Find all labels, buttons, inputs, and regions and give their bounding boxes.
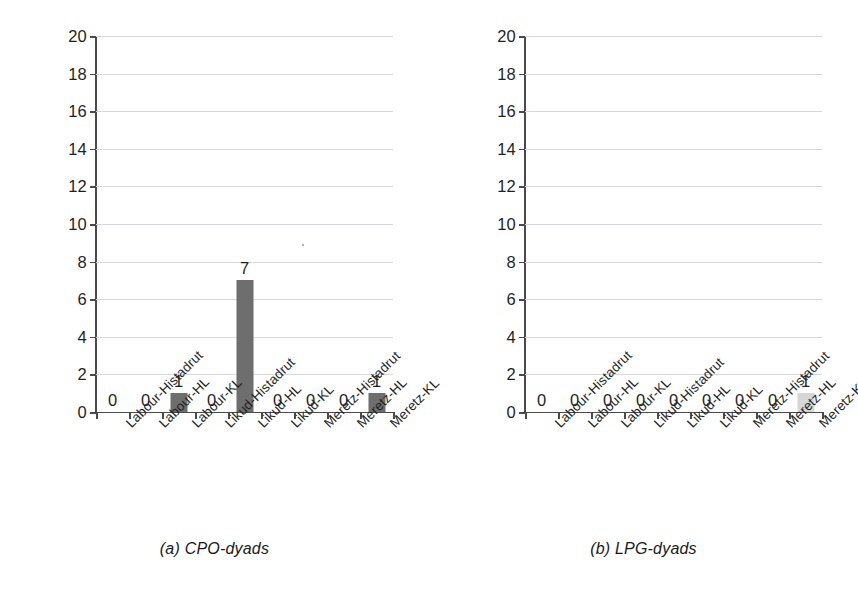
caption-b: (b) LPG-dyads (429, 540, 858, 558)
y-tick-label-2: 2 (78, 365, 87, 384)
bar-group-labour-hl[interactable]: 0 (558, 36, 591, 412)
x-axis-label: Meretz-Histadrut (321, 420, 332, 431)
panel-cpo-dyads: 02468101214161820 001070001 Labour-Hista… (0, 0, 429, 590)
x-axis-label: Labour-Histadrut (552, 420, 563, 431)
bar-value-label: 0 (108, 391, 117, 410)
y-tick-label-12: 12 (68, 177, 87, 196)
x-axis-label: Labour-HL (156, 420, 167, 431)
bar-value-label: 0 (537, 391, 546, 410)
x-axis-labels-a: Labour-HistadrutLabour-HLLabour-KLLikud-… (96, 420, 393, 530)
y-tick-label-4: 4 (507, 327, 516, 346)
y-tick-label-18: 18 (497, 64, 516, 83)
panel-lpg-dyads: 02468101214161820 000000001 Labour-Hista… (429, 0, 858, 590)
x-axis-label: Meretz-KL (387, 420, 398, 431)
bar-group-meretz-hl[interactable]: 0 (327, 36, 360, 412)
y-tick-label-6: 6 (78, 290, 87, 309)
y-tick-label-2: 2 (507, 365, 516, 384)
x-axis-label: Labour-KL (618, 420, 629, 431)
bar-group-labour-histadrut[interactable]: 0 (96, 36, 129, 412)
y-tick-label-12: 12 (497, 177, 516, 196)
x-axis-label: Meretz-HL (354, 420, 365, 431)
y-tick-label-8: 8 (507, 252, 516, 271)
y-tick-label-0: 0 (78, 403, 87, 422)
bars-b: 000000001 (525, 36, 822, 412)
x-axis-label: Likud-HL (255, 420, 266, 431)
bars-a: 001070001 (96, 36, 393, 412)
x-axis-label: Labour-KL (189, 420, 200, 431)
y-tick-label-20: 20 (68, 27, 87, 46)
x-axis-label: Meretz-KL (816, 420, 827, 431)
y-tick-label-10: 10 (497, 215, 516, 234)
y-tick-label-8: 8 (78, 252, 87, 271)
bar-group-likud-hl[interactable]: 7 (228, 36, 261, 412)
y-tick-label-20: 20 (497, 27, 516, 46)
bar-group-labour-hl[interactable]: 0 (129, 36, 162, 412)
bar-group-meretz-histadrut[interactable]: 0 (294, 36, 327, 412)
y-tick-label-16: 16 (497, 102, 516, 121)
x-axis-label: Likud-Histadrut (651, 420, 662, 431)
x-axis-label: Labour-HL (585, 420, 596, 431)
y-tick-label-6: 6 (507, 290, 516, 309)
x-axis-label: Likud-Histadrut (222, 420, 233, 431)
x-tick-mark (96, 412, 98, 419)
y-tick-label-18: 18 (68, 64, 87, 83)
y-tick-label-10: 10 (68, 215, 87, 234)
y-tick-label-14: 14 (68, 139, 87, 158)
y-tick-label-4: 4 (78, 327, 87, 346)
x-axis-label: Likud-KL (288, 420, 299, 431)
x-axis-label: Meretz-HL (783, 420, 794, 431)
bar-group-meretz-hl[interactable]: 0 (756, 36, 789, 412)
x-axis-label: Meretz-Histadrut (750, 420, 761, 431)
y-tick-label-16: 16 (68, 102, 87, 121)
x-axis-labels-b: Labour-HistadrutLabour-HLLabour-KLLikud-… (525, 420, 822, 530)
y-tick-label-14: 14 (497, 139, 516, 158)
caption-a: (a) CPO-dyads (0, 540, 429, 558)
bar-group-meretz-histadrut[interactable]: 0 (723, 36, 756, 412)
x-axis-label: Labour-Histadrut (123, 420, 134, 431)
y-tick-label-0: 0 (507, 403, 516, 422)
bar-group-likud-kl[interactable]: 0 (261, 36, 294, 412)
bar-group-likud-kl[interactable]: 0 (690, 36, 723, 412)
print-speck (302, 244, 304, 246)
bar-group-likud-hl[interactable]: 0 (657, 36, 690, 412)
x-tick-mark (525, 412, 527, 419)
plot-area-a: 02468101214161820 001070001 (96, 36, 393, 412)
plot-area-b: 02468101214161820 000000001 (525, 36, 822, 412)
bar-group-labour-histadrut[interactable]: 0 (525, 36, 558, 412)
bar-value-label: 7 (240, 259, 249, 278)
x-axis-label: Likud-KL (717, 420, 728, 431)
x-axis-label: Likud-HL (684, 420, 695, 431)
figure-two-panel-bar-charts: 02468101214161820 001070001 Labour-Hista… (0, 0, 858, 590)
